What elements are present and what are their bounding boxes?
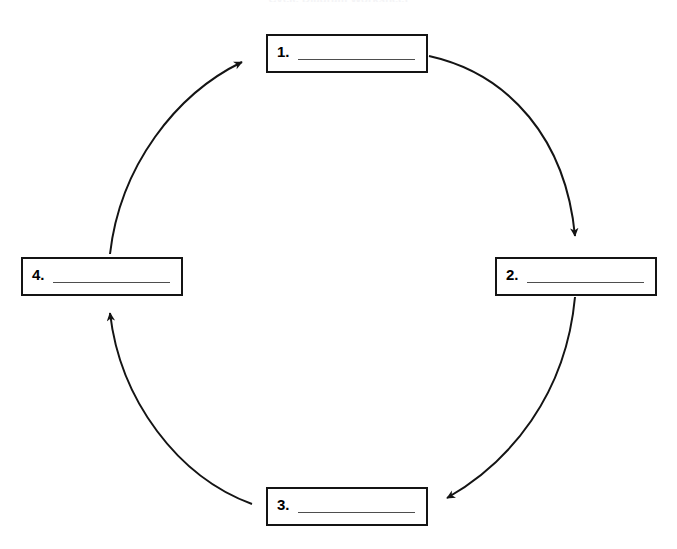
arrow-step1-to-step2 [429, 56, 575, 236]
step-answer-line-1[interactable] [298, 59, 415, 60]
worksheet-page: Cycle Diagram Worksheet 1. 2. 3. 4. [0, 0, 677, 549]
step-answer-line-2[interactable] [527, 282, 644, 283]
step-answer-line-4[interactable] [53, 282, 170, 283]
step-number-1: 1. [277, 44, 290, 59]
step-box-2[interactable]: 2. [495, 257, 657, 296]
step-number-2: 2. [506, 267, 519, 282]
step-box-1[interactable]: 1. [266, 34, 428, 73]
step-box-3[interactable]: 3. [266, 487, 428, 526]
step-box-4[interactable]: 4. [21, 257, 183, 296]
step-answer-line-3[interactable] [298, 512, 415, 513]
step-number-4: 4. [32, 267, 45, 282]
arrow-step2-to-step3 [447, 297, 575, 498]
arrow-step4-to-step1 [110, 62, 242, 254]
arrow-step3-to-step4 [110, 313, 252, 504]
step-number-3: 3. [277, 497, 290, 512]
